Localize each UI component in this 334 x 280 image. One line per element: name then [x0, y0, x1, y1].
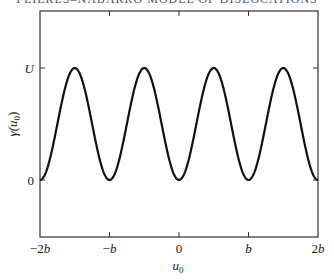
- data-curve: [40, 68, 318, 180]
- y-tick-labels: 0U: [25, 61, 36, 188]
- chart: −2b−b0b2b 0U u0 γ(u0): [0, 0, 334, 280]
- x-tick-label: −b: [103, 241, 117, 256]
- axis-ticks: [40, 11, 318, 237]
- x-tick-label: 0: [176, 241, 183, 256]
- x-tick-labels: −2b−b0b2b: [30, 241, 325, 256]
- x-tick-label: −2b: [30, 241, 51, 256]
- plot-frame: [40, 11, 318, 237]
- y-tick-label: U: [25, 61, 36, 76]
- y-tick-label: 0: [28, 173, 35, 188]
- x-axis-label: u0: [173, 258, 185, 275]
- x-tick-label: b: [245, 241, 252, 256]
- x-tick-label: 2b: [312, 241, 326, 256]
- y-axis-label: γ(u0): [5, 112, 22, 137]
